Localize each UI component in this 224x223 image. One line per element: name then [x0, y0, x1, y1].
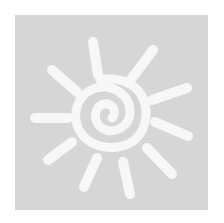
ray-top [93, 42, 98, 75]
sun-icon [0, 0, 224, 223]
ray-bottom-center [123, 162, 130, 194]
